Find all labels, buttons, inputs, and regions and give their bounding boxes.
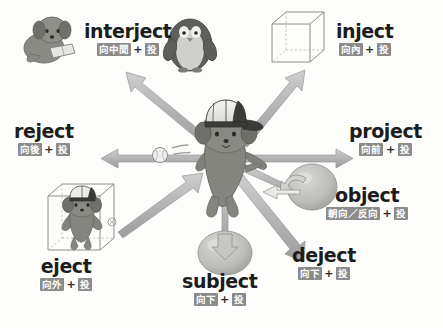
arrow-eject — [118, 173, 203, 238]
object-sphere-illustration — [263, 164, 337, 210]
diagram-canvas — [0, 0, 443, 328]
eject-cube-exit-marker — [108, 218, 116, 226]
subject-sphere-illustration — [198, 231, 252, 275]
ject-root-word-diagram: interject 向中間 + 投 inject 向內 + 投 reject 向… — [0, 0, 443, 328]
interject-reading-dog-illustration — [24, 17, 75, 63]
interject-penguin-illustration — [161, 19, 219, 73]
inject-cube-illustration — [272, 12, 324, 62]
